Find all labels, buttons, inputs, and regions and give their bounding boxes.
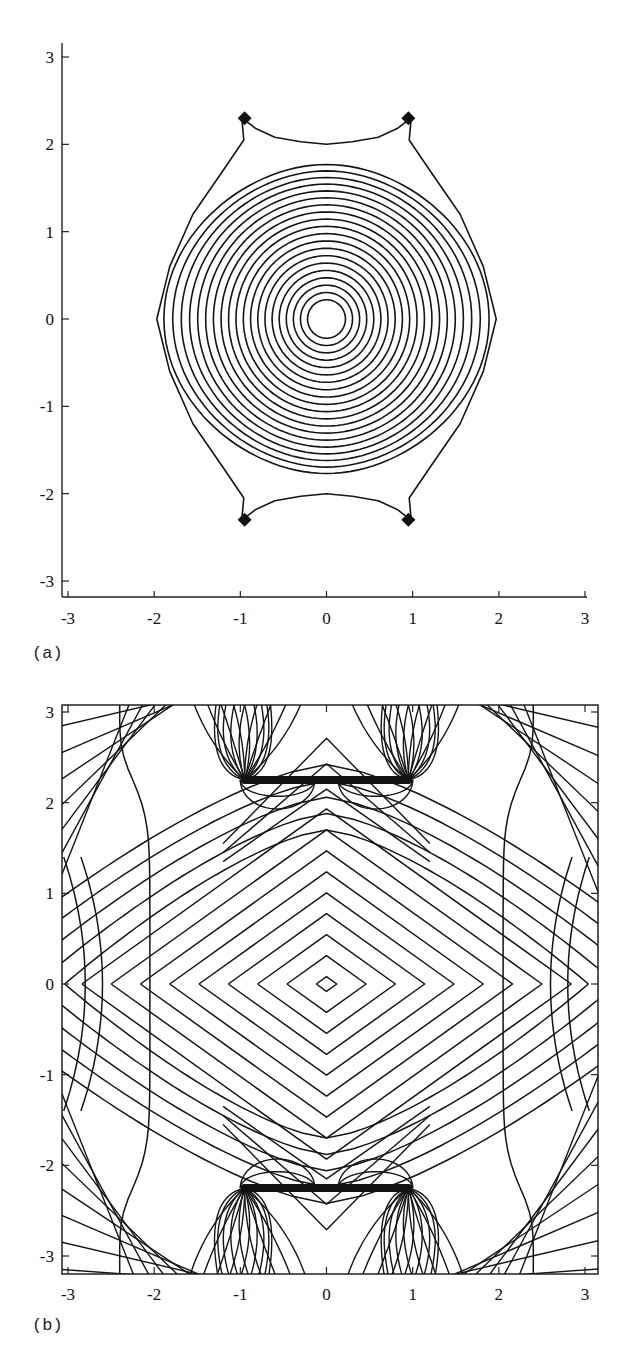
y-tick-label: 3 [46, 703, 55, 722]
contour-plot-b-canvas: 3210-1-2-3-3-2-10123 [0, 680, 631, 1359]
x-tick-label: -1 [233, 1285, 247, 1304]
v-contour [223, 1125, 430, 1230]
v-contour [223, 738, 430, 843]
contour-line [293, 285, 359, 353]
contour-line [286, 278, 366, 360]
contour-line [251, 241, 403, 397]
diamond-contour [82, 809, 571, 1159]
contour-line [213, 205, 439, 433]
corner-contour [51, 1211, 220, 1284]
y-tick-label: -1 [40, 1066, 54, 1085]
corner-contour [483, 685, 602, 845]
corner-contour [483, 1124, 602, 1284]
y-tick-label: -3 [40, 572, 54, 591]
outer-contour-top [36, 814, 617, 985]
y-tick-label: -2 [40, 485, 54, 504]
corner-contour [433, 685, 602, 758]
y-tick-label: -1 [40, 397, 54, 416]
panel-caption-a: (a) [32, 644, 63, 663]
contour-line [236, 226, 417, 411]
contour-line [265, 256, 388, 383]
separatrix-left [157, 122, 244, 517]
y-tick-label: 0 [46, 975, 55, 994]
corner-contour [433, 1211, 602, 1284]
x-tick-label: 1 [408, 609, 417, 628]
x-tick-label: 3 [581, 1285, 590, 1304]
contour-line [308, 300, 346, 338]
corner-contour [500, 685, 603, 874]
contour-line [221, 212, 432, 426]
corner-contour [51, 685, 154, 874]
corner-contour [51, 1153, 187, 1284]
x-tick-label: 0 [322, 1285, 331, 1304]
corner-contour [51, 1182, 203, 1284]
separatrix-bottom [245, 494, 409, 518]
corner-contour [450, 1182, 602, 1284]
x-tick-label: 2 [495, 609, 504, 628]
x-tick-label: 1 [408, 1285, 417, 1304]
y-tick-label: -3 [40, 1247, 54, 1266]
contour-plot-a: 3210-1-2-3-3-2-10123 [0, 0, 631, 680]
diamond-contour [199, 893, 454, 1075]
x-tick-label: -2 [147, 609, 161, 628]
corner-contour [51, 685, 253, 700]
diamond-contour [287, 956, 366, 1013]
corner-contour [400, 685, 602, 700]
separatrix-top [245, 120, 409, 144]
contour-plot-b: 3210-1-2-3-3-2-10123 [0, 680, 631, 1359]
corner-contour [51, 685, 220, 758]
hyperbolic-contour [503, 685, 533, 1283]
corner-contour [450, 685, 602, 787]
y-tick-label: -2 [40, 1156, 54, 1175]
y-tick-label: 2 [46, 794, 55, 813]
y-tick-label: 1 [46, 884, 55, 903]
diamond-contour [140, 851, 512, 1117]
contour-line [173, 171, 481, 467]
corner-contour [51, 1269, 253, 1284]
corner-contour [466, 1153, 602, 1284]
y-tick-label: 1 [46, 223, 55, 242]
outer-contour-top [0, 781, 631, 984]
y-tick-label: 0 [46, 310, 55, 329]
diamond-contour [111, 830, 542, 1138]
outer-contour-bottom [36, 984, 617, 1155]
x-tick-label: 3 [581, 609, 590, 628]
diamond-contour [170, 872, 484, 1096]
x-tick-label: -3 [61, 1285, 75, 1304]
corner-contour [400, 1269, 602, 1284]
side-contour [551, 857, 573, 1111]
panel-caption-b: (b) [32, 1316, 63, 1335]
corner-contour [51, 1124, 170, 1284]
corner-contour [51, 1095, 154, 1284]
diamond-contour [258, 935, 396, 1034]
outer-contour-bottom [0, 984, 631, 1187]
y-tick-label: 2 [46, 135, 55, 154]
y-tick-label: 3 [46, 48, 55, 67]
x-tick-label: -3 [61, 609, 75, 628]
x-tick-label: -1 [233, 609, 247, 628]
contour-plot-a-canvas: 3210-1-2-3-3-2-10123 [0, 0, 631, 680]
x-tick-label: 0 [322, 609, 331, 628]
contour-line [190, 184, 464, 454]
side-contour [81, 857, 103, 1111]
contour-line [243, 234, 409, 405]
x-tick-label: -2 [147, 1285, 161, 1304]
diamond-contour [316, 977, 337, 992]
separatrix-right [409, 122, 496, 517]
corner-contour [51, 685, 203, 787]
hyperbolic-contour [120, 685, 150, 1283]
contour-line [181, 178, 471, 461]
x-tick-label: 2 [495, 1285, 504, 1304]
corner-contour [500, 1095, 603, 1284]
contour-lines [0, 671, 631, 1297]
corner-contour [51, 685, 170, 845]
contour-line [272, 263, 381, 375]
